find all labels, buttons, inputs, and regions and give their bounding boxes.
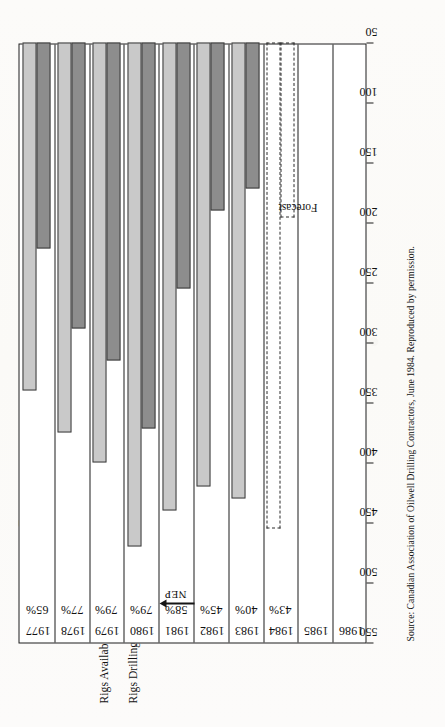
figure-stage: Figure 9.4 Western Canada Yearly Average… [0, 0, 445, 727]
axis-tick-50 [366, 42, 373, 43]
axis-tick-100 [366, 102, 373, 103]
year-label-1979: 1979 [95, 622, 120, 637]
bar-rigs-drilling-1981 [176, 42, 190, 288]
axis-tick-label-350: 350 [359, 383, 377, 398]
year-label-1981: 1981 [164, 622, 189, 637]
axis-tick-label-500: 500 [359, 563, 377, 578]
year-label-1977: 1977 [25, 622, 50, 637]
bar-rigs-drilling-1984 [280, 42, 294, 217]
band-separator [54, 44, 55, 642]
year-label-1985: 1985 [303, 622, 328, 637]
bar-rigs-drilling-1978 [71, 42, 85, 328]
band-separator [158, 44, 159, 642]
utilization-label-1979: 79% [95, 601, 118, 616]
axis-tick-label-300: 300 [359, 323, 377, 338]
utilization-label-1983: 40% [234, 601, 257, 616]
bar-rigs-available-1977 [22, 42, 36, 390]
bar-rigs-available-1984 [266, 42, 280, 528]
band-separator [89, 44, 90, 642]
bar-rigs-available-1981 [162, 42, 176, 510]
band-separator [263, 44, 264, 642]
source-note: Source: Canadian Association of Oilwell … [404, 41, 416, 641]
axis-tick-550 [366, 642, 373, 643]
axis-tick-label-400: 400 [359, 443, 377, 458]
axis-tick-400 [366, 462, 373, 463]
axis-tick-label-550: 550 [359, 623, 377, 638]
figure-container: Figure 9.4 Western Canada Yearly Average… [0, 0, 445, 727]
axis-tick-300 [366, 342, 373, 343]
utilization-label-1977: 65% [25, 601, 48, 616]
axis-tick-label-450: 450 [359, 503, 377, 518]
year-label-1978: 1978 [60, 622, 85, 637]
bar-rigs-available-1979 [92, 42, 106, 462]
axis-tick-label-250: 250 [359, 263, 377, 278]
forecast-label: Forecast [278, 201, 317, 213]
bar-rigs-drilling-1982 [210, 42, 224, 210]
axis-tick-350 [366, 402, 373, 403]
utilization-label-1984: 43% [269, 601, 292, 616]
axis-tick-label-150: 150 [359, 143, 377, 158]
axis-tick-450 [366, 522, 373, 523]
nep-pointer-line [164, 602, 194, 603]
band-separator [228, 44, 229, 642]
bar-rigs-available-1983 [231, 42, 245, 498]
axis-tick-250 [366, 282, 373, 283]
bar-rigs-available-1978 [57, 42, 71, 432]
bar-rigs-drilling-1980 [141, 42, 155, 428]
band-separator [297, 44, 298, 642]
axis-tick-label-200: 200 [359, 203, 377, 218]
band-separator [332, 44, 333, 642]
utilization-label-1980: 79% [130, 601, 153, 616]
year-label-1983: 1983 [234, 622, 259, 637]
year-label-1982: 1982 [199, 622, 224, 637]
bar-rigs-drilling-1977 [36, 42, 50, 248]
bar-rigs-drilling-1979 [106, 42, 120, 360]
axis-tick-500 [366, 582, 373, 583]
axis-tick-150 [366, 162, 373, 163]
band-separator [123, 44, 124, 642]
plot-frame: 197765%197877%197979%198079%198158%19824… [18, 43, 366, 643]
axis-tick-label-100: 100 [359, 83, 377, 98]
utilization-label-1982: 45% [199, 601, 222, 616]
utilization-label-1978: 77% [60, 601, 83, 616]
nep-label: NEP [164, 588, 186, 600]
chart-plot-area: 197765%197877%197979%198079%198158%19824… [18, 43, 366, 643]
axis-tick-200 [366, 222, 373, 223]
bar-rigs-available-1982 [196, 42, 210, 486]
axis-tick-label-50: 50 [365, 23, 377, 38]
bar-rigs-drilling-1983 [245, 42, 259, 188]
year-label-1984: 1984 [269, 622, 294, 637]
band-separator [193, 44, 194, 642]
bar-rigs-available-1980 [127, 42, 141, 546]
year-label-1980: 1980 [129, 622, 154, 637]
